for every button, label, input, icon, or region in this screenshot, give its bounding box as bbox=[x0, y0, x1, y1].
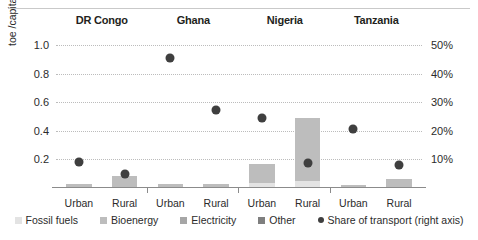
bar-slot bbox=[331, 31, 377, 188]
chart-container: toe /capita DR CongoGhanaNigeriaTanzania… bbox=[0, 0, 478, 240]
stacked-bar[interactable] bbox=[249, 127, 275, 188]
bar-slot bbox=[239, 31, 285, 188]
bar-slot bbox=[148, 31, 194, 188]
x-axis-line bbox=[52, 187, 426, 188]
legend-item[interactable]: Other bbox=[258, 214, 295, 226]
x-label-group: UrbanRural bbox=[56, 196, 148, 210]
transport-share-marker[interactable] bbox=[395, 161, 404, 170]
group-divider bbox=[238, 188, 239, 193]
x-label-group: UrbanRural bbox=[148, 196, 240, 210]
legend-label: Share of transport (right axis) bbox=[328, 214, 464, 226]
y-tick-label-right: 40% bbox=[431, 69, 453, 79]
bar-slot bbox=[376, 31, 422, 188]
y-tick-label-left: 0.8 bbox=[34, 69, 49, 79]
bar-slot bbox=[56, 31, 102, 188]
x-tick-label: Rural bbox=[285, 196, 331, 210]
top-divider bbox=[8, 8, 470, 9]
legend-label: Electricity bbox=[191, 214, 236, 226]
country-header: Nigeria bbox=[239, 12, 331, 28]
x-tick-label: Rural bbox=[193, 196, 239, 210]
transport-share-marker[interactable] bbox=[74, 158, 83, 167]
legend-circle-icon bbox=[318, 217, 324, 223]
chart-legend: Fossil fuelsBioenergyElectricityOtherSha… bbox=[0, 214, 478, 226]
bar-group bbox=[239, 31, 331, 188]
stacked-bar[interactable] bbox=[203, 162, 229, 188]
stacked-bar[interactable] bbox=[112, 144, 138, 188]
legend-square-icon bbox=[15, 217, 22, 224]
stacked-bar[interactable] bbox=[158, 162, 184, 188]
bar-group bbox=[56, 31, 148, 188]
bar-group bbox=[148, 31, 240, 188]
y-tick-label-right: 50% bbox=[431, 40, 453, 50]
legend-item[interactable]: Electricity bbox=[180, 214, 236, 226]
y-tick-label-right: 10% bbox=[431, 154, 453, 164]
bar-segment bbox=[386, 179, 412, 187]
transport-share-marker[interactable] bbox=[166, 54, 175, 63]
legend-square-icon bbox=[180, 217, 187, 224]
legend-square-icon bbox=[100, 217, 107, 224]
y-tick-label-left: 0.4 bbox=[34, 126, 49, 136]
bar-segment bbox=[249, 164, 275, 183]
bar-slot bbox=[285, 31, 331, 188]
transport-share-marker[interactable] bbox=[349, 125, 358, 134]
legend-item[interactable]: Fossil fuels bbox=[15, 214, 79, 226]
y-tick-label-left: 0.6 bbox=[34, 97, 49, 107]
bar-slot bbox=[102, 31, 148, 188]
legend-label: Bioenergy bbox=[111, 214, 158, 226]
legend-label: Other bbox=[269, 214, 295, 226]
country-header: Ghana bbox=[148, 12, 240, 28]
x-axis-labels: UrbanRuralUrbanRuralUrbanRuralUrbanRural bbox=[56, 196, 422, 210]
bar-slot bbox=[193, 31, 239, 188]
transport-share-marker[interactable] bbox=[212, 105, 221, 114]
group-divider bbox=[147, 188, 148, 193]
legend-square-icon bbox=[258, 217, 265, 224]
stacked-bar[interactable] bbox=[341, 168, 367, 188]
country-header: Tanzania bbox=[331, 12, 423, 28]
y-tick-label-left: 1.0 bbox=[34, 40, 49, 50]
x-label-group: UrbanRural bbox=[331, 196, 423, 210]
y-axis-label: toe /capita bbox=[6, 34, 18, 46]
x-tick-label: Urban bbox=[56, 196, 102, 210]
country-header-row: DR CongoGhanaNigeriaTanzania bbox=[56, 12, 422, 28]
group-divider bbox=[330, 188, 331, 193]
stacked-bar[interactable] bbox=[295, 83, 321, 188]
x-tick-label: Urban bbox=[331, 196, 377, 210]
transport-share-marker[interactable] bbox=[303, 159, 312, 168]
x-tick-label: Urban bbox=[239, 196, 285, 210]
transport-share-marker[interactable] bbox=[120, 169, 129, 178]
x-tick-label: Rural bbox=[376, 196, 422, 210]
bar-segment bbox=[295, 118, 321, 181]
x-tick-label: Urban bbox=[148, 196, 194, 210]
legend-item[interactable]: Share of transport (right axis) bbox=[318, 214, 464, 226]
x-tick-label: Rural bbox=[102, 196, 148, 210]
bar-group bbox=[331, 31, 423, 188]
y-tick-label-left: 0.2 bbox=[34, 154, 49, 164]
y-tick-label-right: 30% bbox=[431, 97, 453, 107]
bar-groups bbox=[56, 31, 422, 188]
transport-share-marker[interactable] bbox=[257, 114, 266, 123]
legend-label: Fossil fuels bbox=[26, 214, 79, 226]
y-tick-label-right: 20% bbox=[431, 126, 453, 136]
x-label-group: UrbanRural bbox=[239, 196, 331, 210]
legend-item[interactable]: Bioenergy bbox=[100, 214, 158, 226]
country-header: DR Congo bbox=[56, 12, 148, 28]
plot-area: 1.050%0.840%0.630%0.420%0.210% bbox=[56, 31, 422, 188]
